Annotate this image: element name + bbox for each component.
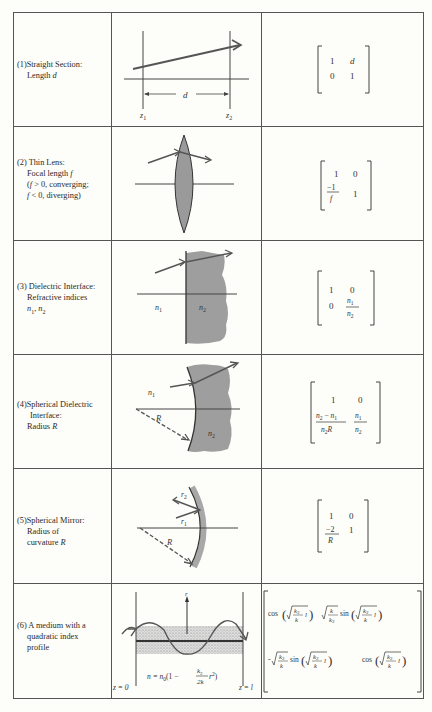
svg-text:0: 0 xyxy=(350,285,355,295)
svg-text:d: d xyxy=(350,56,355,66)
svg-text:l: l xyxy=(305,611,307,619)
svg-text:2k: 2k xyxy=(197,678,205,686)
row-number: (5) xyxy=(17,516,27,525)
transfer-matrix: cos ( k2 k l ) k k2 sin ( xyxy=(262,584,423,698)
element-label: (6) A medium with a quadratic index prof… xyxy=(17,620,86,653)
svg-text:(: ( xyxy=(375,653,379,668)
table-row-straight-section: (1)Straight Section: Length d d z1 z2 xyxy=(14,13,423,127)
label-line: Radius xyxy=(27,422,52,431)
label-line: Interface: xyxy=(30,411,62,420)
matrix-entry-cos: cos ( k2 k l ) xyxy=(362,652,406,669)
row-number: (2) xyxy=(17,158,27,167)
svg-text:(: ( xyxy=(282,607,286,622)
label-line: Spherical Dielectric xyxy=(27,400,93,409)
svg-text:k: k xyxy=(314,662,317,669)
matrix-entry-cos: cos ( k2 k l ) xyxy=(268,606,313,623)
element-label: (1)Straight Section: Length d xyxy=(17,59,82,81)
svg-text:k2: k2 xyxy=(329,616,335,624)
svg-text:1: 1 xyxy=(331,395,336,405)
element-label-cell: (6) A medium with a quadratic index prof… xyxy=(14,584,112,698)
table-row-dielectric-interface: (3) Dielectric Interface: Refractive ind… xyxy=(14,241,423,355)
label-line: profile xyxy=(27,643,49,652)
straight-section-diagram: d z1 z2 xyxy=(112,13,262,127)
label-text: < 0, diverging) xyxy=(29,191,81,200)
svg-text:z2: z2 xyxy=(225,111,232,121)
label-var: R xyxy=(52,422,57,431)
svg-text:z = 0: z = 0 xyxy=(112,683,129,692)
element-label: (4)Spherical Dielectric Interface: Radiu… xyxy=(17,399,93,432)
transfer-matrix: 1 0 −2 R 1 xyxy=(262,469,423,584)
label-line: Focal length xyxy=(27,169,70,178)
label-line: Thin Lens: xyxy=(29,158,65,167)
svg-text:r1: r1 xyxy=(181,517,187,527)
label-text: > 0, converging; xyxy=(32,180,89,189)
svg-text:k: k xyxy=(330,607,333,614)
matrix-cell: 1 0 −1 f 1 xyxy=(262,127,423,240)
label-line: Radius of xyxy=(27,527,59,536)
svg-text:cos: cos xyxy=(268,609,278,618)
matrix-cell: 1 0 0 n1 n2 xyxy=(262,241,423,354)
dielectric-interface-diagram: n1 n2 xyxy=(112,241,262,355)
svg-text:1: 1 xyxy=(329,511,334,521)
svg-text:sin: sin xyxy=(290,655,299,664)
distance-label: d xyxy=(183,90,188,100)
matrix-entry-neg-sin: - k2 k sin ( k2 k l ) xyxy=(268,652,332,669)
label-line: Spherical Mirror: xyxy=(27,516,85,525)
label-var: f xyxy=(70,169,72,178)
row-number: (6) xyxy=(17,621,27,630)
svg-text:0: 0 xyxy=(353,169,358,179)
svg-text:n1: n1 xyxy=(355,411,362,421)
svg-text:z = l: z = l xyxy=(238,683,253,692)
svg-text:n1: n1 xyxy=(148,388,155,398)
svg-text:): ) xyxy=(309,607,313,622)
svg-text:-: - xyxy=(268,655,271,664)
svg-text:k2: k2 xyxy=(197,667,203,676)
svg-text:1: 1 xyxy=(353,189,358,199)
ray-transfer-matrix-table: (1)Straight Section: Length d d z1 z2 xyxy=(13,12,424,699)
label-line: A medium with a xyxy=(28,621,85,630)
row-number: (4) xyxy=(17,400,27,409)
svg-text:1: 1 xyxy=(329,285,334,295)
label-line: Straight Section: xyxy=(27,60,83,69)
diagram-cell: n1 n2 xyxy=(112,241,262,354)
svg-text:1: 1 xyxy=(349,525,354,535)
matrix-cell: 1 0 n2 − n1 n2R n1 n2 xyxy=(262,355,423,468)
svg-text:n2: n2 xyxy=(347,309,354,319)
element-label: (5)Spherical Mirror: Radius of curvature… xyxy=(17,515,85,548)
svg-text:(: ( xyxy=(301,653,305,668)
matrix-cell: 1 d 0 1 xyxy=(262,13,423,126)
row-number: (3) xyxy=(17,282,27,291)
table-row-spherical-mirror: (5)Spherical Mirror: Radius of curvature… xyxy=(14,469,423,584)
row-number: (1) xyxy=(17,60,27,69)
transfer-matrix: 1 0 −1 f 1 xyxy=(262,127,423,241)
svg-text:z1: z1 xyxy=(139,111,146,121)
svg-text:l: l xyxy=(374,611,376,619)
svg-text:k: k xyxy=(364,616,367,623)
quadratic-index-medium-diagram: r z = 0 z = l n = n0(1 − k2 2k r2) xyxy=(112,584,262,698)
element-label-cell: (4)Spherical Dielectric Interface: Radiu… xyxy=(14,355,112,468)
svg-text:(: ( xyxy=(351,607,355,622)
svg-text:k2: k2 xyxy=(279,653,285,661)
spherical-mirror-diagram: R r2 r1 xyxy=(112,469,262,584)
diagram-cell: r z = 0 z = l n = n0(1 − k2 2k r2) xyxy=(112,584,262,698)
matrix-entry-sin: k k2 sin ( k2 k l ) xyxy=(322,606,382,624)
svg-text:n2 − n1: n2 − n1 xyxy=(316,411,337,421)
label-line: Refractive indices xyxy=(27,293,87,302)
label-var: d xyxy=(53,71,57,80)
svg-text:sin: sin xyxy=(340,609,349,618)
svg-text:n1: n1 xyxy=(155,303,162,313)
svg-text:0: 0 xyxy=(330,71,335,81)
element-label-cell: (1)Straight Section: Length d xyxy=(14,13,112,126)
svg-text:0: 0 xyxy=(358,395,363,405)
transfer-matrix: 1 0 n2 − n1 n2R n1 n2 xyxy=(262,355,423,469)
table-row-spherical-dielectric-interface: (4)Spherical Dielectric Interface: Radiu… xyxy=(14,355,423,469)
lens-shape xyxy=(175,135,193,233)
svg-text:n = n0(1 −: n = n0(1 − xyxy=(147,672,178,682)
diagram-cell xyxy=(112,127,262,240)
spherical-dielectric-interface-diagram: R n1 n2 xyxy=(112,355,262,469)
arrow-head-icon xyxy=(128,629,136,636)
label-line: Dielectric Interface: xyxy=(29,282,96,291)
svg-text:k: k xyxy=(280,662,283,669)
svg-text:0: 0 xyxy=(329,301,334,311)
svg-text:l: l xyxy=(398,657,400,665)
